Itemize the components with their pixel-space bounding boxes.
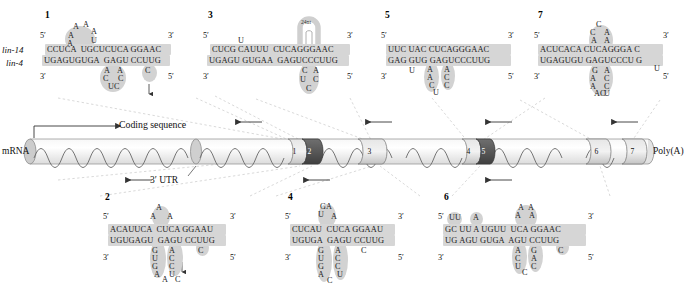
site-4-loop-u3: A: [331, 212, 337, 221]
site-1-loop-u4: A: [91, 27, 97, 36]
mrna-site-number-3: 3: [364, 147, 375, 156]
site-2-loop-l10: C: [175, 275, 180, 284]
site-1-prime-tl: 5′: [40, 31, 46, 40]
site-6-number: 6: [444, 192, 449, 202]
site-6-loop-u6: A: [529, 211, 535, 220]
site-4-loop-u2: U: [318, 210, 324, 219]
site-3-number: 3: [208, 10, 213, 20]
site-1-top-sequence: CCUCA UGCUCUCA GGAAC: [47, 45, 161, 54]
site-5-top-sequence: UUC UAC CUCAGGGAAC: [388, 45, 489, 54]
mrna-label: mRNA: [2, 146, 29, 156]
site-7-prime-bl: 3′: [534, 72, 540, 81]
site-3-loop-l5: C: [306, 84, 311, 93]
site-3-top-sequence: CUCG CAUUU CUCAGGGAAC: [212, 45, 334, 54]
site-2-loop-u3: A: [167, 212, 173, 221]
site-7-prime-tl: 5′: [534, 31, 540, 40]
site-7-top-sequence: ACUCACA CUCAGGGA C: [540, 45, 640, 54]
site-7-prime-tr: 3′: [663, 31, 669, 40]
site-6-loop-u5: A: [515, 211, 521, 220]
gene-label-lin4: lin-4: [6, 58, 23, 68]
mrna-site-number-5: 5: [478, 147, 489, 156]
site-4-prime-tl: 5′: [285, 212, 291, 221]
site-4-prime-bl: 3′: [285, 253, 291, 262]
site-7-loop-u5: A: [604, 36, 610, 45]
mrna-site-number-7: 7: [627, 147, 638, 156]
site-5-prime-br: 5′: [508, 72, 514, 81]
site-6-loop-l3: U: [515, 262, 521, 271]
site-3-hairpin-length-label: 24nt: [301, 19, 311, 25]
site-1-prime-bl: 3′: [40, 72, 46, 81]
gene-label-lin14: lin-14: [2, 45, 24, 55]
site-3-prime-tl: 5′: [203, 31, 209, 40]
site-2-loop-u2: A: [150, 212, 156, 221]
site-2-loop-l5: A: [162, 275, 168, 284]
site-1-bottom-sequence: UGAGUGUGA GAGU CCUUG: [44, 56, 161, 65]
site-1-loop-u2: A: [83, 20, 89, 29]
site-4-bulge-char: C: [361, 246, 366, 255]
site-3-loop-l3: U: [300, 75, 306, 84]
mrna-site-number-4: 4: [463, 147, 474, 156]
site-6-loop-l4: C: [522, 268, 527, 277]
site-7-loop-u1: C: [596, 20, 601, 29]
mrna-site-number-6: 6: [591, 147, 602, 156]
site-3-loop-u1: U: [238, 36, 244, 45]
site-5-bottom-sequence: GAG GUG GAGUCCCUUG: [388, 56, 490, 65]
site-3-bottom-sequence: UGAGU GUGAA GAGUCCCUUG: [209, 56, 338, 65]
site-3-prime-bl: 3′: [203, 72, 209, 81]
site-2-prime-tl: 5′: [103, 212, 109, 221]
site-2-loop-u1: A: [156, 203, 162, 212]
site-2-prime-bl: 3′: [103, 253, 109, 262]
site-2-prime-br: 5′: [230, 253, 236, 262]
site-5-prime-tr: 3′: [508, 31, 514, 40]
site-5-loop-l4: U: [433, 88, 439, 97]
site-4-loop-l4: A: [318, 270, 324, 279]
site-2-top-sequence: ACAUUCA CUCA GGAAU: [110, 225, 213, 234]
site-3-prime-br: 5′: [347, 72, 353, 81]
site-2-prime-tr: 3′: [230, 212, 236, 221]
site-6-top-sequence: GC UU A UGUU UCA GGAAC: [445, 225, 561, 234]
site-4-loop-l5: C: [327, 276, 332, 285]
site-6-loop-u2: A: [473, 213, 479, 222]
site-4-prime-tr: 3′: [398, 212, 404, 221]
site-1-loop-l5: UC: [108, 82, 119, 91]
site-2-bulge-char: C: [198, 246, 203, 255]
site-5-prime-bl: 3′: [381, 72, 387, 81]
site-5-number: 5: [385, 10, 390, 20]
mrna-site-number-2: 2: [304, 147, 315, 156]
site-3-prime-tr: 3′: [347, 31, 353, 40]
site-1-loop-u1: A: [73, 22, 79, 31]
site-4-prime-br: 5′: [398, 253, 404, 262]
site-5-prime-tl: 5′: [381, 31, 387, 40]
site-7-tail-char: U: [654, 64, 660, 73]
site-4-top-sequence: CUCAU CUCA GGAAU: [292, 225, 383, 234]
text-layer: 1 lin-14 lin-4 5′ 3′ 3′ 5′ A A A A A U C…: [0, 0, 695, 297]
site-7-loop-l8: U: [604, 89, 610, 98]
site-4-loop-l9: U: [337, 270, 343, 279]
site-6-loop-u1: UU: [449, 213, 461, 222]
site-6-loop-l7: C: [531, 262, 536, 271]
site-7-prime-br: 5′: [663, 72, 669, 81]
site-1-prime-br: 5′: [168, 72, 174, 81]
site-3-loop-l4: C: [313, 75, 318, 84]
site-5-loop-l7: C: [444, 81, 449, 90]
site-4-number: 4: [288, 192, 293, 202]
site-1-prime-tr: 3′: [168, 31, 174, 40]
mrna-site-number-1: 1: [289, 147, 300, 156]
utr-label: 3′ UTR: [150, 175, 178, 185]
site-7-number: 7: [538, 10, 543, 20]
site-1-number: 1: [45, 10, 50, 20]
site-6-bulge-char: C: [558, 246, 563, 255]
site-6-prime-br: 5′: [588, 253, 594, 262]
site-7-loop-u4: A: [591, 36, 597, 45]
site-4-bottom-sequence: UGUGA GAGU CCUUG: [292, 236, 384, 245]
site-7-bottom-sequence: UGAGUGU GAGUCCCU G: [540, 56, 642, 65]
site-6-prime-bl: 3′: [438, 253, 444, 262]
site-2-bottom-sequence: UGUGAGU GAGU CCUUG: [110, 236, 215, 245]
site-5-loop-l0: U: [409, 66, 415, 75]
site-6-prime-tl: 5′: [438, 212, 444, 221]
site-2-loop-l4: A: [154, 270, 160, 279]
site-1-bulge-char: C: [145, 66, 150, 75]
polya-label: Poly(A): [653, 146, 684, 156]
site-3-loop-l1: C: [302, 66, 307, 75]
site-3-loop-l2: A: [313, 66, 319, 75]
